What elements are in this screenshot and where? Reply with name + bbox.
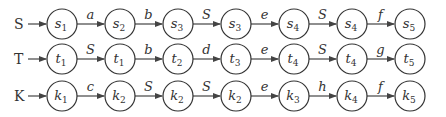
transition-label: S <box>202 79 211 94</box>
state-node: t2 <box>163 44 193 74</box>
transition-label: a <box>87 7 95 22</box>
transition-label: e <box>261 7 269 22</box>
transition-label: b <box>144 7 152 22</box>
row-label: K <box>14 88 25 104</box>
transition-label: e <box>261 79 269 94</box>
state-node: t1 <box>105 44 135 74</box>
transition-label: e <box>261 42 269 57</box>
row-s: SabSeSfs1s2s3s3s4s4s5 <box>14 7 425 39</box>
state-node: s5 <box>395 9 425 39</box>
state-node: t3 <box>221 44 251 74</box>
state-node: k5 <box>395 81 425 111</box>
state-node: k4 <box>337 81 367 111</box>
transition-label: f <box>377 7 385 22</box>
state-node: k3 <box>279 81 309 111</box>
state-node: k2 <box>221 81 251 111</box>
state-node: t4 <box>279 44 309 74</box>
row-t: TSbdeSgt1t1t2t3t4t4t5 <box>14 42 425 74</box>
transition-label: f <box>377 79 385 94</box>
state-node: k2 <box>105 81 135 111</box>
row-label: S <box>14 16 24 32</box>
state-node: t4 <box>337 44 367 74</box>
state-node: t1 <box>47 44 77 74</box>
state-node: s3 <box>221 9 251 39</box>
transition-label: S <box>318 42 327 57</box>
state-node: t5 <box>395 44 425 74</box>
state-node: s3 <box>163 9 193 39</box>
state-node: s1 <box>47 9 77 39</box>
transition-label: b <box>144 42 152 57</box>
transition-label: S <box>86 42 95 57</box>
state-node: k2 <box>163 81 193 111</box>
transition-label: S <box>144 79 153 94</box>
state-node: k1 <box>47 81 77 111</box>
transition-label: S <box>202 7 211 22</box>
transition-label: g <box>376 42 384 57</box>
row-label: T <box>14 51 24 67</box>
state-diagram: SabSeSfs1s2s3s3s4s4s5TSbdeSgt1t1t2t3t4t4… <box>0 0 446 117</box>
transition-label: S <box>318 7 327 22</box>
state-node: s2 <box>105 9 135 39</box>
state-node: s4 <box>279 9 309 39</box>
state-node: s4 <box>337 9 367 39</box>
transition-label: c <box>87 79 95 94</box>
row-k: KcSSehfk1k2k2k2k3k4k5 <box>14 79 425 111</box>
transition-label: h <box>318 79 326 94</box>
transition-label: d <box>202 42 210 57</box>
